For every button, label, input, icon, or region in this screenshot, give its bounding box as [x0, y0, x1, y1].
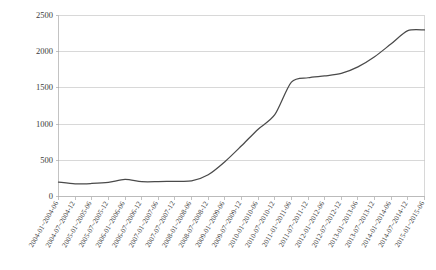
x-axis-tickmarks [59, 197, 425, 200]
y-tick-label: 2500 [36, 10, 53, 20]
plot-frame [59, 16, 425, 197]
y-tick-label: 500 [40, 155, 53, 165]
y-tick-label: 1500 [36, 82, 53, 92]
y-tick-label: 0 [49, 191, 53, 201]
chart-canvas: 05001000150020002500 2004-01~2004-062004… [0, 0, 436, 270]
y-tick-label: 1000 [36, 119, 53, 129]
data-series [59, 30, 425, 184]
y-axis-tick-labels: 05001000150020002500 [36, 10, 59, 201]
gridlines [59, 16, 425, 197]
series-line-series-1 [59, 30, 425, 184]
x-axis-tick-labels: 2004-01~2004-062004-07~2004-122005-01~20… [27, 200, 426, 249]
y-tick-label: 2000 [36, 46, 53, 56]
line-chart: 05001000150020002500 2004-01~2004-062004… [0, 0, 436, 270]
